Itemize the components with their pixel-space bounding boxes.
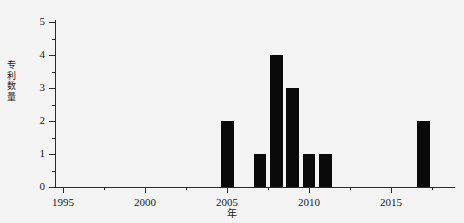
y-tick-label: 1 — [5, 148, 45, 159]
x-axis-line — [55, 187, 455, 188]
y-tick — [49, 88, 55, 89]
y-axis-line — [55, 20, 56, 188]
y-minor-tick — [52, 72, 55, 73]
bar — [254, 154, 267, 187]
bar — [221, 121, 234, 187]
x-tick-label: 2000 — [123, 196, 167, 208]
y-minor-tick — [52, 39, 55, 40]
y-tick-label: 2 — [5, 115, 45, 126]
x-minor-tick — [104, 187, 105, 190]
x-tick — [309, 187, 310, 193]
x-tick-label: 2010 — [287, 196, 331, 208]
patent-count-bar-chart: 012345 19952000200520102015 专利数量 年 — [0, 0, 464, 223]
y-tick — [49, 22, 55, 23]
y-tick — [49, 187, 55, 188]
y-tick-label: 0 — [5, 181, 45, 192]
y-tick — [49, 55, 55, 56]
x-minor-tick — [186, 187, 187, 190]
bar — [319, 154, 332, 187]
x-tick — [145, 187, 146, 193]
y-tick-label: 5 — [5, 16, 45, 27]
x-axis-title: 年 — [0, 208, 464, 219]
x-tick — [391, 187, 392, 193]
bar — [303, 154, 316, 187]
x-tick-label: 2005 — [205, 196, 249, 208]
y-tick — [49, 154, 55, 155]
y-minor-tick — [52, 171, 55, 172]
bar — [417, 121, 430, 187]
x-minor-tick — [268, 187, 269, 190]
x-minor-tick — [432, 187, 433, 190]
x-tick — [63, 187, 64, 193]
x-minor-tick — [350, 187, 351, 190]
plot-area — [55, 22, 455, 187]
y-axis-title: 专利数量 — [4, 60, 18, 102]
y-minor-tick — [52, 105, 55, 106]
bar — [286, 88, 299, 187]
x-tick-label: 1995 — [41, 196, 85, 208]
y-minor-tick — [52, 138, 55, 139]
x-tick-label: 2015 — [369, 196, 413, 208]
bar — [270, 55, 283, 187]
y-tick — [49, 121, 55, 122]
x-tick — [227, 187, 228, 193]
y-tick-label: 4 — [5, 49, 45, 60]
